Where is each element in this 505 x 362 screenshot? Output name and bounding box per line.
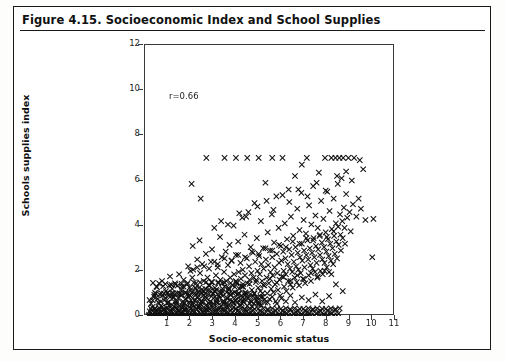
x-tick-mark <box>371 315 372 320</box>
x-tick-mark <box>326 315 327 320</box>
y-tick-label: 12 <box>114 38 140 48</box>
y-tick-mark <box>138 225 143 226</box>
x-tick-mark <box>189 315 190 320</box>
x-tick-mark <box>235 315 236 320</box>
y-tick-mark <box>138 180 143 181</box>
y-axis-title: Schools supplies index <box>20 76 31 236</box>
scatter-plot-canvas <box>145 45 395 316</box>
y-tick-mark <box>138 89 143 90</box>
correlation-annotation: r=0.66 <box>169 91 199 101</box>
x-tick-mark <box>394 315 395 320</box>
y-tick-label: 0 <box>114 309 140 319</box>
x-tick-mark <box>349 315 350 320</box>
x-tick-mark <box>258 315 259 320</box>
x-axis-title: Socio-economic status <box>144 333 394 344</box>
y-tick-label: 8 <box>114 128 140 138</box>
y-tick-mark <box>138 270 143 271</box>
y-tick-label: 10 <box>114 83 140 93</box>
x-tick-mark <box>303 315 304 320</box>
title-divider <box>20 30 485 31</box>
y-tick-mark <box>138 315 143 316</box>
plot-frame <box>144 44 394 315</box>
y-axis-tick-group: 024681012 <box>108 0 140 362</box>
x-tick-mark <box>167 315 168 320</box>
x-tick-mark <box>212 315 213 320</box>
y-tick-label: 6 <box>114 174 140 184</box>
figure-page: Figure 4.15. Socioeconomic Index and Sch… <box>0 0 505 362</box>
x-tick-mark <box>280 315 281 320</box>
y-tick-label: 4 <box>114 219 140 229</box>
y-tick-mark <box>138 44 143 45</box>
figure-title: Figure 4.15. Socioeconomic Index and Sch… <box>22 10 482 30</box>
y-tick-label: 2 <box>114 264 140 274</box>
y-tick-mark <box>138 134 143 135</box>
